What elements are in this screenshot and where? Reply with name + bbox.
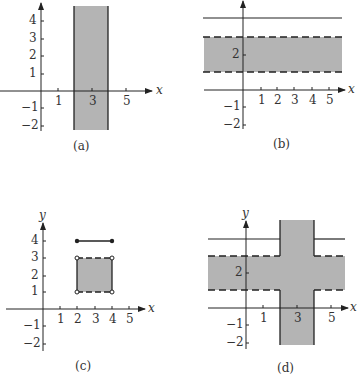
shaded-vertical-strip: [74, 6, 108, 130]
shaded-square: [77, 258, 112, 292]
x-tick-label: 3: [294, 311, 302, 325]
y-tick-label: 3: [29, 31, 37, 45]
x-tick-label: 5: [123, 94, 131, 108]
closed-endpoint: [75, 239, 79, 243]
panel-caption: (c): [75, 359, 91, 373]
y-tick-label: 2: [235, 265, 243, 279]
y-tick-label: −2: [226, 335, 244, 349]
y-tick-label: 1: [29, 66, 37, 80]
panel-caption: (a): [73, 139, 90, 153]
x-tick-label: 2: [74, 312, 82, 326]
open-corner: [75, 290, 79, 294]
y-tick-label: −1: [226, 317, 244, 331]
y-tick-label: 2: [31, 268, 39, 282]
x-tick-label: 5: [126, 312, 134, 326]
y-tick-label: −2: [223, 117, 241, 131]
axis-label-y: y: [39, 208, 46, 222]
shaded-horizontal-strip: [204, 37, 342, 72]
y-tick-label: 4: [31, 233, 39, 247]
x-tick-label: 5: [328, 311, 336, 325]
x-tick-label: 2: [274, 93, 282, 107]
y-tick-label: −2: [21, 118, 39, 132]
axis-label-y: y: [242, 206, 249, 220]
panel-caption: (b): [273, 137, 290, 151]
x-tick-label: 1: [55, 94, 63, 108]
axis-label-x: x: [348, 82, 355, 96]
shaded-horizontal-strip: [208, 256, 345, 290]
y-tick-label: 2: [232, 47, 240, 61]
x-tick-label: 1: [57, 312, 65, 326]
x-tick-label: 5: [326, 93, 334, 107]
closed-endpoint: [110, 239, 114, 243]
x-tick-label: 4: [309, 93, 317, 107]
axis-label-x: x: [148, 301, 155, 315]
axis-label-x: x: [156, 83, 163, 97]
y-tick-label: 3: [31, 250, 39, 264]
y-tick-label: −1: [21, 100, 39, 114]
x-tick-label: 1: [258, 93, 266, 107]
x-tick-label: 1: [260, 311, 268, 325]
open-corner: [110, 290, 114, 294]
x-tick-label: 4: [109, 312, 117, 326]
y-tick-label: −1: [223, 99, 241, 113]
open-corner: [75, 256, 79, 260]
y-tick-label: 4: [29, 13, 37, 27]
open-corner: [110, 256, 114, 260]
x-tick-label: 3: [291, 93, 299, 107]
axis-label-x: x: [350, 300, 357, 314]
shaded-vertical-strip: [280, 220, 314, 345]
y-tick-label: −1: [23, 318, 41, 332]
y-tick-label: −2: [23, 336, 41, 350]
x-tick-label: 3: [92, 312, 100, 326]
figure-canvas: [0, 0, 358, 382]
y-tick-label: 1: [31, 284, 39, 298]
panel-caption: (d): [277, 361, 294, 375]
y-tick-label: 2: [29, 48, 37, 62]
x-tick-label: 3: [89, 94, 97, 108]
